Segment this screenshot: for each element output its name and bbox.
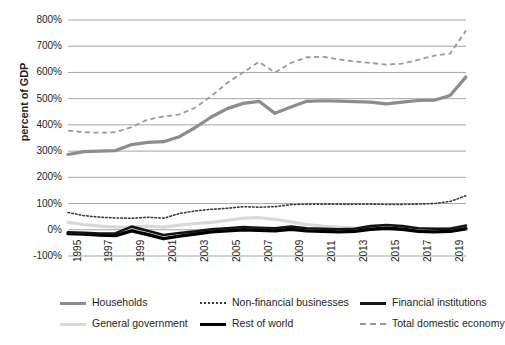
legend-swatch-total-domestic-economy-icon bbox=[360, 317, 386, 329]
x-axis-tick-label: 2013 bbox=[359, 240, 369, 262]
x-axis-tick-labels: 1995199719992001200320052007200920112013… bbox=[0, 0, 483, 300]
legend-swatch-non-financial-businesses-icon bbox=[200, 296, 226, 308]
legend-row: HouseholdsNon-financial businessesFinanc… bbox=[60, 292, 480, 312]
x-axis-tick-label: 1997 bbox=[104, 240, 114, 262]
legend-label-non-financial-businesses: Non-financial businesses bbox=[232, 296, 349, 308]
legend-label-total-domestic-economy: Total domestic economy bbox=[392, 317, 505, 329]
x-axis-tick-label: 2005 bbox=[232, 240, 242, 262]
x-axis-tick-label: 2003 bbox=[200, 240, 210, 262]
legend-swatch-rest-of-world-icon bbox=[200, 317, 226, 329]
x-axis-tick-label: 2019 bbox=[455, 240, 465, 262]
legend-row: General governmentRest of worldTotal dom… bbox=[60, 313, 480, 333]
x-axis-tick-label: 2011 bbox=[327, 240, 337, 262]
chart-legend: HouseholdsNon-financial businessesFinanc… bbox=[60, 292, 480, 338]
legend-item-general-government[interactable]: General government bbox=[60, 313, 188, 333]
legend-item-total-domestic-economy[interactable]: Total domestic economy bbox=[360, 313, 505, 333]
legend-item-rest-of-world[interactable]: Rest of world bbox=[200, 313, 293, 333]
legend-item-financial-institutions[interactable]: Financial institutions bbox=[360, 292, 487, 312]
x-axis-tick-label: 2015 bbox=[391, 240, 401, 262]
legend-label-general-government: General government bbox=[92, 317, 188, 329]
x-axis-tick-label: 2007 bbox=[264, 240, 274, 262]
legend-label-financial-institutions: Financial institutions bbox=[392, 296, 487, 308]
x-axis-tick-label: 2001 bbox=[168, 240, 178, 262]
legend-label-households: Households bbox=[92, 296, 147, 308]
legend-label-rest-of-world: Rest of world bbox=[232, 317, 293, 329]
legend-item-households[interactable]: Households bbox=[60, 292, 147, 312]
x-axis-tick-label: 2009 bbox=[295, 240, 305, 262]
legend-swatch-general-government-icon bbox=[60, 317, 86, 329]
legend-item-non-financial-businesses[interactable]: Non-financial businesses bbox=[200, 292, 349, 312]
legend-swatch-households-icon bbox=[60, 296, 86, 308]
x-axis-tick-label: 1999 bbox=[136, 240, 146, 262]
x-axis-tick-label: 1995 bbox=[73, 240, 83, 262]
x-axis-tick-label: 2017 bbox=[423, 240, 433, 262]
legend-swatch-financial-institutions-icon bbox=[360, 296, 386, 308]
